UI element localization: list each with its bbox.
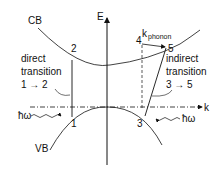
indirect-leader [152,90,172,96]
valence-band-label: VB [35,143,49,154]
indirect-point-3: 3 [137,118,143,129]
band-diagram: E k CB VB 2 1 direct transition 1 → 2 ħω… [0,0,216,171]
direct-point-2: 2 [71,43,77,54]
k-axis-label: k [204,102,210,113]
conduction-band-label: CB [28,15,42,26]
photon-left-label: ħω [18,110,32,121]
photon-right-wave [156,118,180,121]
phonon-arrow [142,44,165,47]
direct-label-1: direct [21,53,46,64]
direct-point-1: 1 [71,118,77,129]
direct-label-3: 1 → 2 [21,79,48,90]
direct-label-2: transition [21,66,62,77]
indirect-label-1: indirect [166,53,198,64]
phonon-sub-label: phonon [148,33,171,41]
indirect-label-3: 3 → 5 [166,79,193,90]
photon-left-wave [31,115,61,118]
photon-right-label: ħω [182,113,196,124]
indirect-transition-line [145,48,166,116]
valence-band-curve [50,107,162,150]
energy-axis-label: E [97,11,104,22]
direct-leader [55,89,70,95]
indirect-label-2: transition [166,66,207,77]
